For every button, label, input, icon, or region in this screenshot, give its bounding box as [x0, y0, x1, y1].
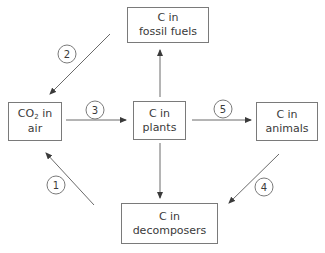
node-fossil-fuels: C in fossil fuels [127, 7, 209, 43]
node-decomposers: C in decomposers [121, 203, 218, 244]
node-co2-air: CO2 in air [8, 102, 62, 141]
node-air-line1: CO2 in [18, 107, 52, 122]
label-2: 2 [64, 49, 70, 60]
node-animals-line1: C in [276, 108, 297, 122]
label-1: 1 [53, 180, 59, 191]
node-fossil-line1: C in [157, 11, 178, 25]
node-fossil-line2: fossil fuels [139, 25, 197, 39]
node-animals-line2: animals [265, 122, 308, 136]
node-plants-line2: plants [143, 121, 177, 135]
node-plants: C in plants [133, 101, 186, 140]
label-3: 3 [92, 105, 98, 116]
node-air-line2: air [28, 122, 42, 136]
node-animals: C in animals [256, 102, 318, 141]
node-decomposers-line1: C in [159, 210, 180, 224]
label-4: 4 [261, 182, 267, 193]
node-plants-line1: C in [149, 107, 170, 121]
arrow-animals-to-decomposers [229, 154, 279, 203]
node-decomposers-line2: decomposers [133, 224, 207, 238]
arrow-fossil-to-air [50, 34, 110, 94]
label-5: 5 [220, 104, 226, 115]
